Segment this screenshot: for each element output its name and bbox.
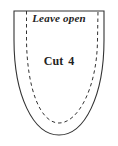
cut-count-label: Cut 4 <box>0 54 118 69</box>
cutting-line <box>14 11 104 135</box>
leave-open-label: Leave open <box>0 12 118 24</box>
